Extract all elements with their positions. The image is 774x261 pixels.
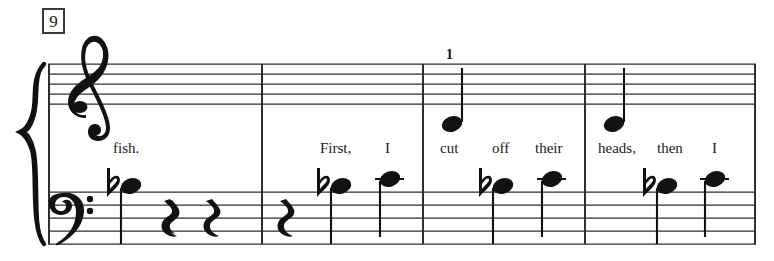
bass-clef-icon xyxy=(49,193,93,246)
flat-accidental-icon xyxy=(479,168,492,197)
note-treble-1 xyxy=(440,68,465,135)
lyric-heads: heads, xyxy=(598,141,636,156)
sheet-music-page: 9 xyxy=(0,0,774,261)
lyric-first: First, xyxy=(320,141,351,156)
staff-system xyxy=(0,0,774,261)
lyric-off: off xyxy=(492,141,509,156)
barlines xyxy=(49,64,755,244)
lyric-i-1: I xyxy=(385,141,390,156)
flat-accidental-icon xyxy=(107,168,120,197)
note-bass-1 xyxy=(119,175,144,244)
measure-1-notes xyxy=(107,168,220,244)
flat-accidental-icon xyxy=(643,168,656,197)
system-brace xyxy=(20,64,44,244)
lyric-their: their xyxy=(535,141,563,156)
treble-clef-icon xyxy=(68,36,110,141)
fingering-1: 1 xyxy=(446,48,453,62)
note-bass-2 xyxy=(329,175,354,244)
note-bass-4 xyxy=(491,175,516,244)
lyric-then: then xyxy=(657,141,683,156)
bass-staff-lines xyxy=(48,192,756,244)
note-bass-5 xyxy=(537,168,566,237)
note-bass-7 xyxy=(700,168,729,237)
measure-2-notes xyxy=(277,168,404,244)
lyric-cut: cut xyxy=(440,141,458,156)
note-bass-6 xyxy=(655,175,680,244)
flat-accidental-icon xyxy=(317,168,330,197)
note-bass-3 xyxy=(375,168,404,237)
lyric-fish: fish. xyxy=(113,141,139,156)
lyric-i-2: I xyxy=(712,141,717,156)
treble-staff-lines xyxy=(48,64,756,104)
note-treble-2 xyxy=(602,68,627,135)
